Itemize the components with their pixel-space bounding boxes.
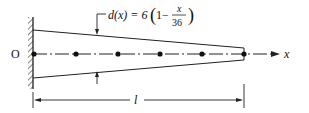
leader-arrow-up <box>95 71 99 77</box>
formula-numerator: x <box>176 3 182 14</box>
beam-node <box>241 51 246 56</box>
origin-label: O <box>11 47 20 61</box>
beam-bottom-edge <box>33 60 244 78</box>
dimension-arrow-right <box>236 98 243 102</box>
length-label: l <box>134 93 138 107</box>
beam-node <box>31 51 36 56</box>
tapered-beam-diagram: x O d(x) = 6 ( 1− x 36 ) l <box>0 0 309 113</box>
formula-lhs: d(x) = 6 <box>108 8 147 22</box>
x-axis-arrowhead <box>271 51 280 57</box>
formula-leader-line <box>97 14 106 30</box>
beam-node <box>115 51 120 56</box>
dimension-arrow-left <box>34 98 41 102</box>
depth-formula: d(x) = 6 ( 1− x 36 ) <box>108 3 194 28</box>
beam-node <box>157 51 162 56</box>
formula-close-paren: ) <box>188 5 194 26</box>
beam-top-edge <box>33 30 244 48</box>
beam-node <box>199 51 204 56</box>
formula-denominator: 36 <box>172 17 182 28</box>
x-axis-label: x <box>283 47 290 61</box>
formula-inner-prefix: 1− <box>156 8 169 22</box>
beam-node <box>73 51 78 56</box>
leader-arrow-down <box>95 29 99 35</box>
